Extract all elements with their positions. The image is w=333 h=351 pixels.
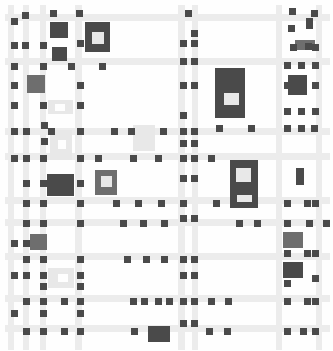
dark-square bbox=[166, 298, 173, 305]
dark-square bbox=[22, 42, 29, 49]
dark-square bbox=[180, 298, 187, 305]
dark-square bbox=[40, 42, 47, 49]
dark-square bbox=[40, 256, 47, 263]
dark-square bbox=[284, 298, 291, 305]
dark-square bbox=[304, 250, 311, 257]
color-block bbox=[236, 168, 251, 182]
dark-square bbox=[23, 298, 30, 305]
dark-square bbox=[284, 108, 291, 115]
dark-square bbox=[180, 40, 187, 47]
dark-square bbox=[208, 298, 215, 305]
dark-square bbox=[11, 310, 18, 317]
dark-square bbox=[40, 180, 47, 187]
color-block bbox=[55, 104, 65, 111]
dark-square bbox=[23, 128, 30, 135]
dark-square bbox=[130, 155, 137, 162]
dark-square bbox=[155, 155, 162, 162]
dark-square bbox=[77, 328, 84, 335]
dark-square bbox=[120, 220, 127, 227]
dark-square bbox=[11, 240, 18, 247]
dark-square bbox=[191, 256, 198, 263]
dark-square bbox=[191, 320, 198, 327]
dark-square bbox=[77, 82, 84, 89]
dark-square bbox=[40, 63, 47, 70]
dark-square bbox=[248, 125, 255, 132]
dark-square bbox=[128, 128, 135, 135]
color-block bbox=[148, 326, 170, 342]
dark-square bbox=[180, 82, 187, 89]
dark-square bbox=[289, 8, 296, 15]
dark-square bbox=[40, 310, 47, 317]
dark-square bbox=[99, 63, 106, 70]
dark-square bbox=[161, 220, 168, 227]
dark-square bbox=[180, 112, 187, 119]
dark-square bbox=[180, 272, 187, 279]
dark-square bbox=[191, 155, 198, 162]
color-block bbox=[50, 22, 68, 38]
dark-square bbox=[11, 18, 18, 25]
color-block bbox=[47, 174, 74, 196]
dark-square bbox=[40, 102, 47, 109]
dark-square bbox=[180, 215, 187, 222]
color-block bbox=[27, 75, 45, 93]
dark-square bbox=[77, 180, 84, 187]
dark-square bbox=[306, 220, 313, 227]
color-block bbox=[283, 262, 303, 278]
dark-square bbox=[135, 200, 142, 207]
dark-square bbox=[305, 43, 312, 50]
dark-square bbox=[180, 58, 187, 65]
dark-square bbox=[23, 240, 30, 247]
dark-square bbox=[298, 108, 305, 115]
dark-square bbox=[224, 328, 231, 335]
color-block bbox=[58, 140, 66, 149]
dark-square bbox=[23, 328, 30, 335]
dark-square bbox=[185, 10, 192, 17]
dark-square bbox=[11, 82, 18, 89]
dark-square bbox=[124, 256, 131, 263]
dark-square bbox=[225, 298, 232, 305]
dark-square bbox=[304, 200, 311, 207]
dark-square bbox=[191, 58, 198, 65]
dark-square bbox=[191, 175, 198, 182]
dark-square bbox=[191, 128, 198, 135]
dark-square bbox=[143, 256, 150, 263]
dark-square bbox=[11, 63, 18, 70]
dark-square bbox=[191, 40, 198, 47]
dark-square bbox=[284, 200, 291, 207]
dark-square bbox=[40, 155, 47, 162]
dark-square bbox=[312, 82, 319, 89]
dark-square bbox=[284, 280, 291, 287]
dark-square bbox=[213, 200, 220, 207]
dark-square bbox=[131, 328, 138, 335]
dark-square bbox=[191, 272, 198, 279]
dark-square bbox=[40, 272, 47, 279]
color-block bbox=[296, 168, 304, 185]
dark-square bbox=[61, 298, 68, 305]
vertical-stripe bbox=[276, 5, 282, 350]
dark-square bbox=[77, 298, 84, 305]
dark-square bbox=[312, 200, 319, 207]
dark-square bbox=[41, 138, 48, 145]
dark-square bbox=[180, 175, 187, 182]
dark-square bbox=[306, 22, 313, 29]
dark-square bbox=[77, 272, 84, 279]
dark-square bbox=[111, 128, 118, 135]
dark-square bbox=[206, 328, 213, 335]
dark-square bbox=[40, 283, 47, 290]
dark-square bbox=[191, 215, 198, 222]
dark-square bbox=[61, 328, 68, 335]
dark-square bbox=[312, 62, 319, 69]
dark-square bbox=[288, 25, 295, 32]
dark-square bbox=[180, 200, 187, 207]
dark-square bbox=[160, 128, 167, 135]
dark-square bbox=[236, 220, 243, 227]
dark-square bbox=[304, 298, 311, 305]
dark-square bbox=[76, 10, 83, 17]
color-block bbox=[30, 234, 47, 250]
dark-square bbox=[298, 62, 305, 69]
dark-square bbox=[284, 250, 291, 257]
dark-square bbox=[11, 102, 18, 109]
dark-square bbox=[23, 155, 30, 162]
dark-square bbox=[312, 250, 319, 257]
dark-square bbox=[141, 298, 148, 305]
